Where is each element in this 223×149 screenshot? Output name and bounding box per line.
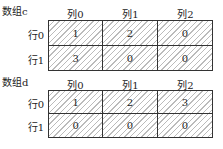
array-d-grid: 1 2 3 0 0 0	[48, 90, 213, 138]
array-c-grid: 1 2 0 3 0 0	[48, 20, 213, 71]
array-d-cell: 0	[158, 114, 212, 137]
array-c-cell: 3	[49, 46, 103, 70]
array-d-cell: 0	[49, 114, 103, 137]
array-c-row1-header: 行1	[24, 52, 44, 67]
array-c-title: 数组c	[2, 6, 28, 18]
array-c-cell: 0	[158, 46, 212, 70]
array-d-cell: 3	[158, 91, 212, 114]
array-c-cell: 0	[103, 46, 157, 70]
array-c-col2-header: 列2	[158, 6, 213, 21]
array-c-cell: 0	[158, 21, 212, 46]
array-c-col0-header: 列0	[48, 6, 103, 21]
array-c-col1-header: 列1	[103, 6, 158, 21]
array-d-row1-header: 行1	[24, 119, 44, 134]
array-c-cell: 1	[49, 21, 103, 46]
array-c-cell: 2	[103, 21, 157, 46]
array-d-cell: 1	[49, 91, 103, 114]
array-c-row0-header: 行0	[24, 27, 44, 42]
array-d-row0-header: 行0	[24, 96, 44, 111]
array-d-cell: 2	[103, 91, 157, 114]
array-d-title: 数组d	[2, 77, 28, 89]
array-d-cell: 0	[103, 114, 157, 137]
